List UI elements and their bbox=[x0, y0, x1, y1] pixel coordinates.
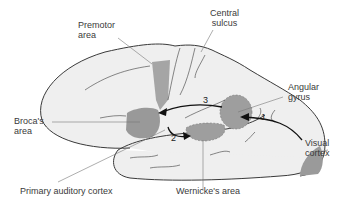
label-visual-cortex: Visual cortex bbox=[305, 138, 330, 158]
brain-diagram: Premotor area Central sulcus Angular gyr… bbox=[0, 0, 345, 203]
pathway-number-3: 3 bbox=[203, 95, 208, 105]
pathway-number-1: 1 bbox=[261, 112, 266, 122]
label-central-sulcus: Central sulcus bbox=[210, 8, 239, 28]
label-angular-gyrus: Angular gyrus bbox=[288, 82, 319, 102]
label-primary-auditory-cortex: Primary auditory cortex bbox=[20, 186, 113, 196]
label-premotor-area: Premotor area bbox=[78, 20, 115, 40]
pathway-number-2: 2 bbox=[171, 133, 176, 143]
label-wernicke-area: Wernicke's area bbox=[176, 186, 240, 196]
broca-region bbox=[126, 108, 160, 138]
label-broca-area: Broca's area bbox=[14, 116, 44, 136]
